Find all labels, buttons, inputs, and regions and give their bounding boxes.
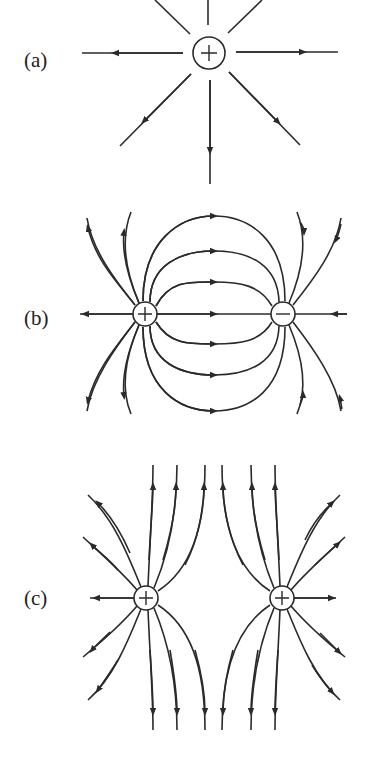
field-lines-figure: [0, 0, 367, 768]
panel-c-diagram: [83, 465, 345, 730]
panel-b-diagram: [80, 212, 347, 414]
panel-a-diagram: [82, 0, 338, 184]
